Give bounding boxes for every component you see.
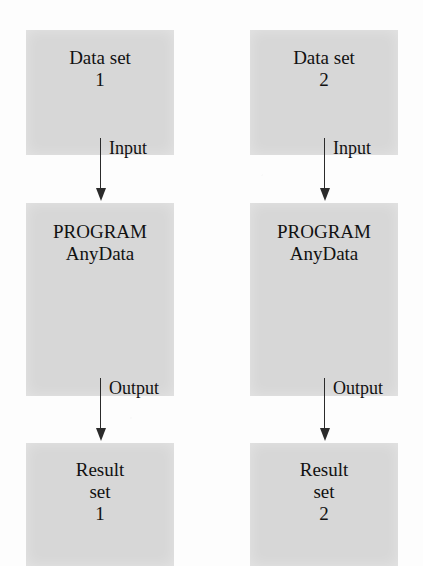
arrow-head-icon	[96, 188, 106, 201]
result-set-box-2: Result set 2	[250, 443, 398, 566]
output-arrow-2-label: Output	[333, 378, 383, 399]
program-box-2-line2: AnyData	[290, 243, 359, 265]
input-arrow-2: Input	[324, 138, 404, 203]
arrow-head-icon	[320, 188, 330, 201]
output-arrow-2-stem	[324, 378, 325, 430]
input-arrow-2-label: Input	[333, 138, 371, 159]
output-arrow-1-label: Output	[109, 378, 159, 399]
result-set-box-1-line1: Result	[76, 459, 125, 481]
input-arrow-1-stem	[100, 138, 101, 190]
input-arrow-1: Input	[100, 138, 180, 203]
result-set-box-1: Result set 1	[26, 443, 174, 566]
result-set-box-2-line1: Result	[300, 459, 349, 481]
input-arrow-1-label: Input	[109, 138, 147, 159]
data-set-box-2-line1: Data set	[293, 47, 355, 69]
data-set-box-1-line2: 1	[95, 69, 105, 91]
data-set-box-2-line2: 2	[319, 69, 329, 91]
data-set-box-1: Data set 1	[26, 30, 174, 155]
output-arrow-2: Output	[324, 378, 404, 443]
output-arrow-1-stem	[100, 378, 101, 430]
data-set-box-2: Data set 2	[250, 30, 398, 155]
result-set-box-1-line3: 1	[95, 503, 105, 525]
program-box-2: PROGRAM AnyData	[250, 203, 398, 396]
result-set-box-2-line2: set	[313, 481, 334, 503]
program-box-1-line2: AnyData	[66, 243, 135, 265]
arrow-head-icon	[320, 428, 330, 441]
program-box-1-line1: PROGRAM	[53, 221, 147, 243]
arrow-head-icon	[96, 428, 106, 441]
program-box-2-line1: PROGRAM	[277, 221, 371, 243]
output-arrow-1: Output	[100, 378, 180, 443]
result-set-box-2-line3: 2	[319, 503, 329, 525]
data-set-box-1-line1: Data set	[69, 47, 131, 69]
program-box-1: PROGRAM AnyData	[26, 203, 174, 396]
input-arrow-2-stem	[324, 138, 325, 190]
result-set-box-1-line2: set	[89, 481, 110, 503]
